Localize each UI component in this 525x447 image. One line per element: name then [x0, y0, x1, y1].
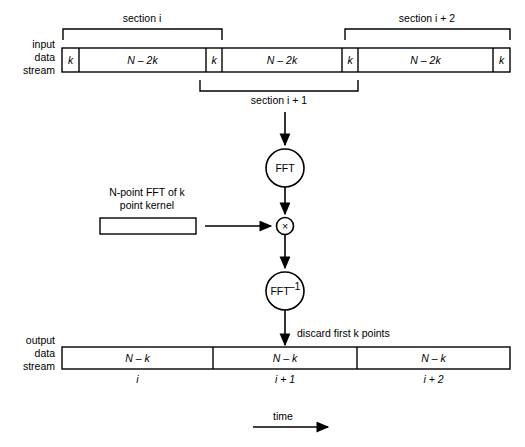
input-cell-1: N – 2k — [127, 54, 158, 66]
output-stream-label-line-2: data — [35, 347, 56, 359]
time-axis: time — [253, 410, 328, 427]
output-cell-0: N – k — [125, 352, 150, 364]
output-stream-label: output data stream — [23, 334, 55, 372]
output-stream-bar: N – k N – k N – k i i + 1 i + 2 — [62, 347, 510, 385]
output-cell-1: N – k — [273, 352, 298, 364]
input-cell-6: k — [499, 54, 505, 66]
input-stream-label-line-2: data — [35, 51, 56, 63]
fft-node: FFT — [266, 149, 304, 187]
output-cell-2: N – k — [421, 352, 446, 364]
bracket-label-section-i-plus-1: section i + 1 — [251, 94, 307, 106]
bracket-section-i-plus-1: section i + 1 — [200, 80, 358, 106]
input-cell-5: N – 2k — [410, 54, 441, 66]
time-label: time — [273, 410, 293, 422]
multiply-node: × — [277, 218, 294, 235]
overlap-save-diagram: section i section i + 2 input data strea… — [0, 0, 525, 447]
fft-label: FFT — [275, 162, 295, 174]
output-stream-label-line-1: output — [26, 334, 55, 346]
input-stream-label: input data stream — [23, 38, 55, 76]
bracket-section-i-plus-2: section i + 2 — [345, 12, 510, 40]
output-stream-label-line-3: stream — [23, 360, 55, 372]
input-stream-label-line-3: stream — [23, 64, 55, 76]
input-cell-3: N – 2k — [267, 54, 298, 66]
bracket-label-section-i: section i — [123, 12, 162, 24]
multiply-symbol: × — [282, 220, 288, 232]
input-stream-label-line-1: input — [32, 38, 55, 50]
ifft-exponent: –1 — [289, 280, 301, 292]
output-index-1: i + 1 — [275, 373, 295, 385]
input-cell-4: k — [347, 54, 353, 66]
discard-annotation: discard first k points — [297, 327, 390, 339]
input-stream-bar: k N – 2k k N – 2k k N – 2k k — [62, 48, 510, 72]
kernel-caption-line-2: point kernel — [120, 199, 174, 211]
diagram-canvas: section i section i + 2 input data strea… — [0, 0, 525, 447]
output-index-2: i + 2 — [423, 373, 443, 385]
input-cell-2: k — [211, 54, 217, 66]
output-index-0: i — [136, 373, 139, 385]
input-cell-0: k — [68, 54, 74, 66]
bracket-section-i: section i — [63, 12, 222, 40]
kernel-caption: N-point FFT of k point kernel — [109, 186, 185, 211]
bracket-label-section-i-plus-2: section i + 2 — [399, 12, 455, 24]
ifft-label: FFT — [270, 285, 290, 297]
ifft-node: FFT –1 — [266, 272, 304, 310]
kernel-caption-line-1: N-point FFT of k — [109, 186, 185, 198]
kernel-box — [100, 218, 196, 234]
